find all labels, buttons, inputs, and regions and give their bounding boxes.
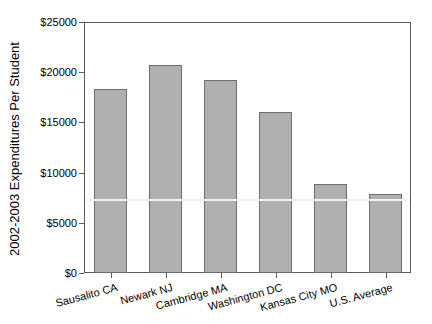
y-tick-label: $25000 — [31, 17, 77, 28]
x-axis-tick — [331, 273, 332, 278]
y-axis-tick — [79, 22, 84, 23]
plot-area — [84, 22, 411, 273]
y-axis-tick — [79, 173, 84, 174]
x-axis-tick — [276, 273, 277, 278]
y-tick-label: $20000 — [31, 67, 77, 78]
y-axis-tick — [79, 72, 84, 73]
y-tick-label: $10000 — [31, 168, 77, 179]
bar-sausalito-ca — [94, 89, 127, 273]
x-axis-tick — [221, 273, 222, 278]
reference-line — [85, 199, 410, 201]
x-tick-label: Sausalito CA — [54, 281, 119, 309]
y-axis-tick — [79, 223, 84, 224]
y-tick-label: $5000 — [31, 218, 77, 229]
y-axis-tick — [79, 122, 84, 123]
x-axis-tick — [386, 273, 387, 278]
bar-newark-nj — [149, 65, 182, 273]
bar-u-s-average — [369, 194, 402, 273]
bar-washington-dc — [259, 112, 292, 273]
bar-kansas-city-mo — [314, 184, 347, 273]
y-tick-label: $15000 — [31, 117, 77, 128]
x-axis-tick — [166, 273, 167, 278]
bar-cambridge-ma — [204, 80, 237, 273]
y-tick-label: $0 — [31, 268, 77, 279]
y-axis-title: 2002-2003 Expenditures Per Student — [7, 19, 25, 279]
x-axis-tick — [111, 273, 112, 278]
y-axis-tick — [79, 273, 84, 274]
bar-chart: 2002-2003 Expenditures Per Student $0$50… — [0, 0, 432, 324]
x-tick-label: U.S. Average — [328, 281, 394, 309]
